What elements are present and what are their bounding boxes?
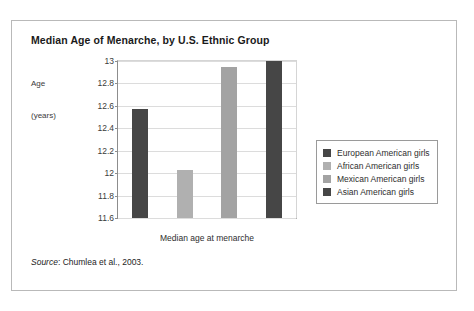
y-tick-mark	[115, 173, 118, 174]
legend-item: African American girls	[323, 159, 430, 172]
y-axis-label-line1: Age	[31, 79, 56, 90]
y-tick-label: 11.6	[98, 213, 114, 223]
y-axis-label: Age (years)	[31, 58, 56, 142]
legend-item: Asian American girls	[323, 185, 430, 198]
bar-1	[132, 109, 148, 218]
bar-3	[221, 67, 237, 218]
y-tick-label: 12.6	[97, 101, 114, 111]
y-tick-mark	[115, 106, 118, 107]
legend-label: Asian American girls	[337, 187, 414, 197]
y-tick-label: 12.8	[97, 78, 114, 88]
legend-label: Mexican American girls	[337, 174, 424, 184]
legend-item: Mexican American girls	[323, 172, 430, 185]
source-note-text: : Chumlea et al., 2003.	[58, 257, 144, 267]
y-tick-mark	[115, 61, 118, 62]
bar-4	[266, 61, 282, 218]
legend-label: African American girls	[337, 161, 419, 171]
bar-2	[177, 170, 193, 218]
y-tick-label: 12.2	[97, 146, 114, 156]
y-axis-label-line2: (years)	[31, 111, 56, 122]
legend-label: European American girls	[337, 148, 430, 158]
legend-swatch-icon	[323, 175, 331, 183]
y-tick-label: 12	[105, 168, 114, 178]
source-note: Source: Chumlea et al., 2003.	[31, 257, 143, 267]
y-tick-mark	[115, 196, 118, 197]
legend-swatch-icon	[323, 188, 331, 196]
legend-item: European American girls	[323, 146, 430, 159]
y-tick-label: 11.8	[98, 191, 114, 201]
y-tick-label: 13	[105, 56, 114, 66]
chart-title: Median Age of Menarche, by U.S. Ethnic G…	[31, 34, 270, 46]
figure-frame: Median Age of Menarche, by U.S. Ethnic G…	[11, 20, 457, 291]
source-note-word: Source	[31, 257, 58, 267]
y-tick-mark	[115, 218, 118, 219]
y-tick-mark	[115, 151, 118, 152]
y-tick-mark	[115, 83, 118, 84]
legend-swatch-icon	[323, 149, 331, 157]
legend-swatch-icon	[323, 162, 331, 170]
x-axis-label: Median age at menarche	[117, 233, 297, 243]
plot-area: 11.611.81212.212.412.612.813	[117, 60, 297, 219]
chart-legend: European American girlsAfrican American …	[316, 140, 438, 204]
y-tick-label: 12.4	[97, 123, 114, 133]
y-tick-mark	[115, 128, 118, 129]
y-gridline	[118, 218, 296, 219]
